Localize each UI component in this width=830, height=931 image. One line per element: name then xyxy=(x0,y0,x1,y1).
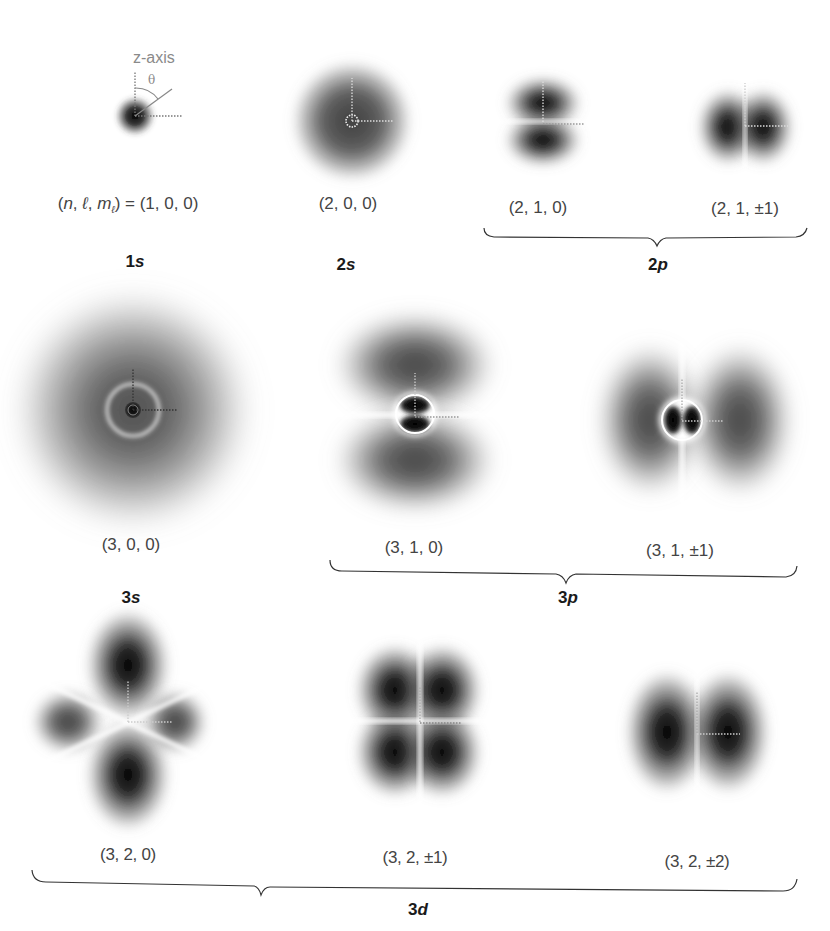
qn-n-symbol: n xyxy=(63,194,72,213)
orbital-3d-m0 xyxy=(32,609,216,831)
subshell-l: p xyxy=(658,255,668,274)
orbital-2p-m0 xyxy=(490,77,600,166)
qn-1s-value: = (1, 0, 0) xyxy=(120,194,198,213)
orbital-3p-m0 xyxy=(330,313,500,512)
qn-label-2p-m0: (2, 1, 0) xyxy=(509,198,568,218)
qn-label-1s: (n, ℓ, mℓ) = (1, 0, 0) xyxy=(58,194,199,215)
qn-label-3d-m2: (3, 2, ±2) xyxy=(665,852,730,872)
orbital-2p-m1 xyxy=(698,82,793,172)
qn-label-2p-m1: (2, 1, ±1) xyxy=(711,199,779,219)
qn-label-3p-m0: (3, 1, 0) xyxy=(385,538,444,558)
subshell-label-1s: 1s xyxy=(126,252,145,272)
subshell-label-3d: 3d xyxy=(408,900,428,920)
subshell-l: s xyxy=(135,252,144,271)
subshell-l: p xyxy=(568,588,578,607)
orbital-2s xyxy=(292,61,412,181)
subshell-label-2s: 2s xyxy=(337,255,356,275)
subshell-label-2p: 2p xyxy=(648,255,668,275)
orbital-3p-m1 xyxy=(598,340,792,505)
subshell-l: s xyxy=(346,255,355,274)
bracket-2p xyxy=(484,228,807,246)
qn-label-3d-m1: (3, 2, ±1) xyxy=(383,848,448,868)
orbital-3d-m1 xyxy=(340,640,500,805)
theta-label: θ xyxy=(148,73,155,87)
qn-label-3s: (3, 0, 0) xyxy=(102,535,161,555)
subshell-label-3s: 3s xyxy=(122,588,141,608)
subshell-label-3p: 3p xyxy=(558,588,578,608)
orbital-3s xyxy=(15,292,251,528)
z-axis-label: z-axis xyxy=(133,49,175,67)
qn-m-symbol: m xyxy=(97,194,111,213)
orbital-3d-m2 xyxy=(625,660,770,810)
orbital-figure xyxy=(0,0,830,931)
subshell-l: s xyxy=(131,588,140,607)
qn-label-3p-m1: (3, 1, ±1) xyxy=(646,541,714,561)
bracket-3p xyxy=(330,560,797,583)
qn-label-2s: (2, 0, 0) xyxy=(319,194,378,214)
qn-label-3d-m0: (3, 2, 0) xyxy=(100,845,156,865)
subshell-l: d xyxy=(418,900,428,919)
bracket-3d xyxy=(32,870,797,895)
